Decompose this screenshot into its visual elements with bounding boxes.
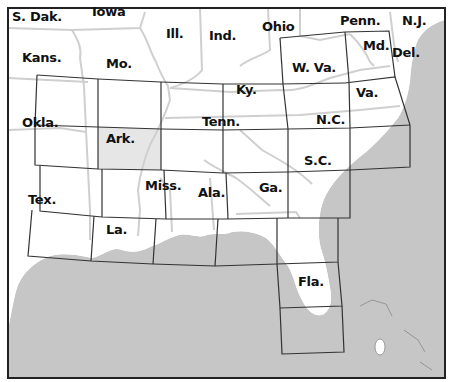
label-ohio: Ohio: [262, 20, 295, 33]
label-ill: Ill.: [166, 27, 184, 40]
label-nj: N.J.: [402, 14, 426, 27]
label-la: La.: [106, 223, 127, 236]
label-md: Md.: [363, 39, 389, 52]
label-ark: Ark.: [106, 132, 135, 145]
map-frame: S. Dak. Iowa Ill. Ind. Ohio Penn. N.J. M…: [0, 0, 453, 382]
label-ga: Ga.: [259, 181, 282, 194]
map-canvas: [0, 0, 453, 382]
label-va: Va.: [356, 86, 378, 99]
label-w-va: W. Va.: [292, 61, 336, 74]
label-tenn: Tenn.: [202, 115, 240, 128]
label-fla: Fla.: [298, 275, 324, 288]
label-s-dak: S. Dak.: [12, 10, 62, 23]
label-mo: Mo.: [106, 57, 132, 70]
label-tex: Tex.: [28, 193, 56, 206]
label-ind: Ind.: [209, 29, 236, 42]
label-kans: Kans.: [22, 51, 61, 64]
label-nc: N.C.: [316, 113, 345, 126]
label-miss: Miss.: [145, 179, 181, 192]
label-iowa: Iowa: [92, 5, 125, 18]
label-del: Del.: [392, 46, 420, 59]
label-penn: Penn.: [340, 14, 380, 27]
label-okla: Okla.: [22, 116, 58, 129]
label-sc: S.C.: [304, 154, 332, 167]
label-ky: Ky.: [236, 83, 257, 96]
label-ala: Ala.: [198, 186, 225, 199]
